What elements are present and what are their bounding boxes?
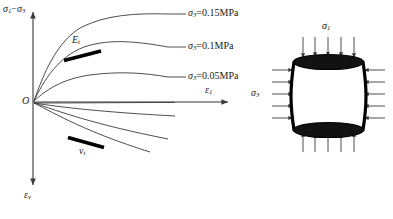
cylinder-top-ellipse <box>294 55 364 70</box>
annotation-label-tangent-modulus: Et <box>72 35 80 46</box>
figure-vector-layer <box>0 0 393 219</box>
cylinder-bottom-ellipse <box>294 123 364 138</box>
specimen-axial-stress-label: σ1 <box>322 21 330 32</box>
deviator-stress-curves <box>34 14 168 101</box>
origin-label: O <box>22 96 29 106</box>
curve-label-sigma3-010: σ3=0.1MPa <box>188 41 233 52</box>
curve-label-leaders <box>168 14 186 77</box>
figure-canvas: σ1−σ3 O ε1 εv σ3=0.15MPa σ3=0.1MPa σ3=0.… <box>0 0 393 219</box>
annotation-label-tangent-poisson: νt <box>79 146 85 157</box>
curve-vol-2 <box>34 103 168 139</box>
plot-axes <box>33 12 228 185</box>
tangent-segment-nut <box>68 138 104 148</box>
cylinder-body <box>291 62 366 130</box>
curve-sigma3-010 <box>34 42 168 101</box>
curve-sigma3-015 <box>34 14 168 101</box>
volumetric-strain-curves <box>34 102 175 152</box>
x-axis-label-axial-strain: ε1 <box>205 85 212 96</box>
specimen-confining-stress-label: σ3 <box>251 88 259 99</box>
curve-label-sigma3-015: σ3=0.15MPa <box>188 8 238 19</box>
curve-label-sigma3-005: σ3=0.05MPa <box>188 71 238 82</box>
y-axis-label-deviator-stress: σ1−σ3 <box>3 4 25 15</box>
specimen-diagram <box>272 37 385 152</box>
tangent-segment-Et <box>64 51 101 61</box>
y-axis-label-volumetric-strain: εv <box>24 190 31 201</box>
curve-sigma3-005 <box>34 73 168 101</box>
curve-vol-flat <box>34 102 175 103</box>
